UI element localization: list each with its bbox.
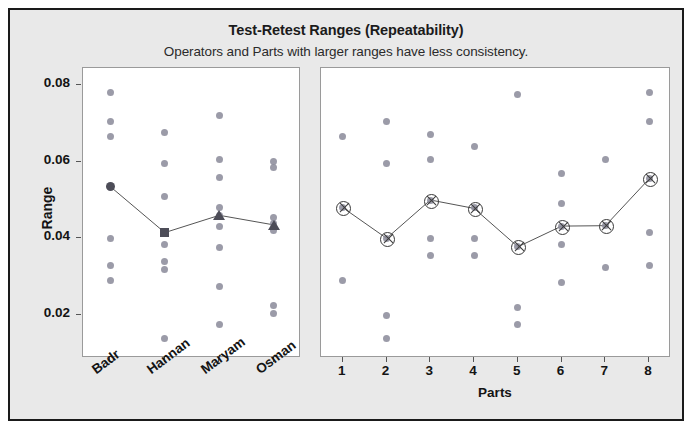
y-tick-label: 0.02 bbox=[18, 305, 70, 320]
data-point bbox=[383, 160, 390, 167]
chart-subtitle: Operators and Parts with larger ranges h… bbox=[10, 44, 682, 59]
x-tick-mark bbox=[342, 357, 343, 362]
x-tick-mark bbox=[429, 357, 430, 362]
y-tick-mark bbox=[76, 237, 81, 238]
parts-mean-line bbox=[321, 68, 669, 356]
data-point bbox=[216, 321, 223, 328]
parts-panel bbox=[320, 67, 670, 357]
y-tick-label: 0.08 bbox=[18, 75, 70, 90]
mean-marker bbox=[643, 172, 658, 187]
data-point bbox=[107, 118, 114, 125]
mean-marker bbox=[511, 240, 526, 255]
data-point bbox=[216, 223, 223, 230]
part-tick-label: 2 bbox=[374, 363, 398, 378]
data-point bbox=[427, 252, 434, 259]
data-point bbox=[216, 283, 223, 290]
data-point bbox=[383, 335, 390, 342]
data-point bbox=[646, 262, 653, 269]
y-tick-mark bbox=[76, 161, 81, 162]
data-point bbox=[602, 264, 609, 271]
part-tick-label: 4 bbox=[461, 363, 485, 378]
data-point bbox=[107, 235, 114, 242]
data-point bbox=[270, 164, 277, 171]
data-point bbox=[427, 156, 434, 163]
data-point bbox=[216, 156, 223, 163]
y-tick-mark bbox=[76, 84, 81, 85]
mean-marker bbox=[555, 220, 570, 235]
data-point bbox=[216, 174, 223, 181]
data-point bbox=[471, 252, 478, 259]
data-point bbox=[427, 131, 434, 138]
data-point bbox=[558, 241, 565, 248]
mean-marker bbox=[599, 219, 614, 234]
part-tick-label: 6 bbox=[549, 363, 573, 378]
data-point bbox=[161, 266, 168, 273]
data-point bbox=[646, 89, 653, 96]
part-tick-label: 7 bbox=[592, 363, 616, 378]
data-point bbox=[383, 118, 390, 125]
data-point bbox=[216, 112, 223, 119]
chart-figure: Test-Retest Ranges (Repeatability) Opera… bbox=[8, 8, 684, 421]
x-tick-mark bbox=[517, 357, 518, 362]
data-point bbox=[161, 193, 168, 200]
x-tick-mark bbox=[561, 357, 562, 362]
operators-panel bbox=[82, 67, 300, 357]
mean-marker bbox=[380, 232, 395, 247]
y-tick-mark bbox=[76, 314, 81, 315]
mean-marker bbox=[468, 202, 483, 217]
data-point bbox=[107, 89, 114, 96]
data-point bbox=[216, 244, 223, 251]
data-point bbox=[558, 279, 565, 286]
data-point bbox=[646, 229, 653, 236]
x-tick-mark bbox=[604, 357, 605, 362]
mean-marker bbox=[336, 201, 351, 216]
data-point bbox=[270, 302, 277, 309]
mean-marker bbox=[106, 182, 115, 191]
data-point bbox=[558, 170, 565, 177]
chart-title: Test-Retest Ranges (Repeatability) bbox=[10, 22, 682, 38]
data-point bbox=[383, 312, 390, 319]
mean-marker bbox=[160, 228, 169, 237]
part-tick-label: 1 bbox=[330, 363, 354, 378]
data-point bbox=[270, 310, 277, 317]
data-point bbox=[107, 277, 114, 284]
mean-marker bbox=[424, 194, 439, 209]
data-point bbox=[514, 304, 521, 311]
data-point bbox=[339, 133, 346, 140]
data-point bbox=[427, 235, 434, 242]
operators-mean-line bbox=[83, 68, 299, 356]
x-axis-label-parts: Parts bbox=[320, 385, 670, 400]
data-point bbox=[646, 118, 653, 125]
data-point bbox=[161, 129, 168, 136]
data-point bbox=[107, 262, 114, 269]
x-tick-mark bbox=[386, 357, 387, 362]
data-point bbox=[471, 235, 478, 242]
x-tick-mark bbox=[473, 357, 474, 362]
part-tick-label: 5 bbox=[505, 363, 529, 378]
data-point bbox=[602, 156, 609, 163]
data-point bbox=[107, 133, 114, 140]
y-tick-label: 0.04 bbox=[18, 228, 70, 243]
x-tick-mark bbox=[648, 357, 649, 362]
data-point bbox=[161, 258, 168, 265]
data-point bbox=[339, 277, 346, 284]
mean-marker bbox=[268, 220, 280, 230]
part-tick-label: 3 bbox=[417, 363, 441, 378]
data-point bbox=[161, 160, 168, 167]
data-point bbox=[161, 241, 168, 248]
data-point bbox=[161, 335, 168, 342]
y-tick-label: 0.06 bbox=[18, 152, 70, 167]
mean-marker bbox=[213, 210, 225, 220]
data-point bbox=[558, 200, 565, 207]
data-point bbox=[471, 143, 478, 150]
data-point bbox=[514, 91, 521, 98]
data-point bbox=[514, 321, 521, 328]
part-tick-label: 8 bbox=[636, 363, 660, 378]
